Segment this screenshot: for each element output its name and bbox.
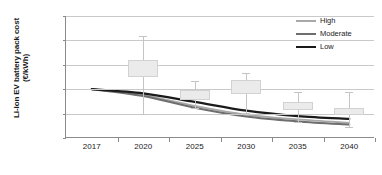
whisker-cap-lower [242,113,250,114]
legend-label: High [320,16,335,25]
legend-item[interactable]: Moderate [296,27,352,40]
whisker-cap-upper [242,73,250,74]
box-plot-box [180,90,210,100]
box-plot-box [283,102,313,110]
whisker-cap-lower [294,122,302,123]
legend-swatch-moderate [296,33,316,35]
legend-item[interactable]: High [296,14,352,27]
whisker-cap-upper [345,92,353,93]
y-axis-tick-mark [63,114,66,115]
x-axis-tick-label: 2040 [319,142,379,151]
legend-label: Moderate [320,29,352,38]
legend: HighModerateLow [296,14,352,53]
whisker-cap-lower [345,127,353,128]
legend-label: Low [320,42,334,51]
whisker-cap-upper [294,92,302,93]
gridline [66,114,374,115]
y-axis-tick-mark [63,89,66,90]
y-axis-title-line1: Li-Ion EV battery pack cost [12,18,21,118]
y-axis-title-line2: (€/kWh) [22,0,31,136]
y-axis-tick-mark [63,16,66,17]
y-axis-tick-mark [63,138,66,139]
x-axis-tick-mark [375,138,376,142]
whisker-cap-lower [191,108,199,109]
legend-item[interactable]: Low [296,40,352,53]
box-plot-box [334,108,364,115]
gridline [66,89,374,90]
whisker-cap-lower [139,114,147,115]
y-axis-tick-mark [63,40,66,41]
chart-container: Li-Ion EV battery pack cost (€/kWh) 0100… [0,0,382,175]
whisker-cap-upper [191,81,199,82]
gridline [66,65,374,66]
y-axis-tick-mark [63,65,66,66]
whisker-cap-upper [139,36,147,37]
legend-swatch-high [296,20,316,22]
box-plot-box [231,80,261,94]
y-axis-title: Li-Ion EV battery pack cost (€/kWh) [13,0,31,136]
box-plot-box [128,60,158,77]
legend-swatch-low [296,46,316,48]
